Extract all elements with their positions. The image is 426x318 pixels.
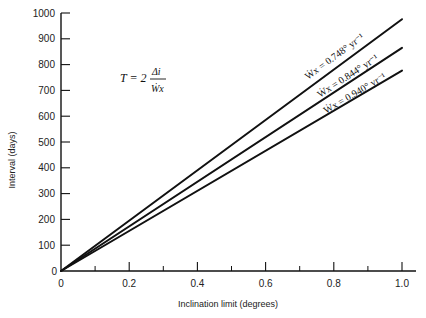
- x-tick-label: 0.4: [190, 278, 204, 289]
- x-tick-label: 0.8: [327, 278, 341, 289]
- series-line: [61, 19, 402, 271]
- y-tick-label: 400: [38, 162, 55, 173]
- y-tick-label: 800: [38, 59, 55, 70]
- y-tick-label: 1000: [33, 8, 56, 19]
- y-tick-label: 700: [38, 85, 55, 96]
- formula-numerator: Δi: [151, 66, 161, 77]
- x-tick-label: 0.2: [122, 278, 136, 289]
- series-lines: [61, 19, 402, 271]
- interval-vs-inclination-chart: 0100200300400500600700800900100000.20.40…: [0, 0, 426, 318]
- y-tick-label: 100: [38, 240, 55, 251]
- x-axis-title: Inclination limit (degrees): [178, 299, 278, 309]
- y-axis-title: Interval (days): [7, 131, 17, 188]
- y-tick-label: 500: [38, 137, 55, 148]
- x-tick-label: 0: [58, 278, 64, 289]
- series-line: [61, 48, 402, 271]
- formula-denominator: Ẇx: [151, 83, 164, 94]
- y-tick-label: 300: [38, 188, 55, 199]
- series-labels: Ẇx = 0.748° yr⁻¹Ẇx = 0.844° yr⁻¹Ẇx = 0.9…: [303, 31, 388, 116]
- y-tick-label: 900: [38, 33, 55, 44]
- formula-lhs: T = 2: [120, 71, 147, 85]
- formula-annotation: T = 2 Δi Ẇx: [120, 66, 166, 94]
- axis-ticks: 0100200300400500600700800900100000.20.40…: [33, 8, 410, 290]
- y-tick-label: 0: [51, 266, 57, 277]
- x-tick-label: 0.6: [259, 278, 273, 289]
- y-tick-label: 600: [38, 111, 55, 122]
- x-tick-label: 1.0: [395, 278, 409, 289]
- y-tick-label: 200: [38, 214, 55, 225]
